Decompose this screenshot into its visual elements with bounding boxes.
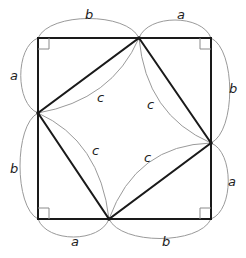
label-c-top-right: c: [147, 97, 154, 112]
right-angle-bottom-right: [200, 208, 211, 219]
arc-bottom-b: [109, 219, 211, 239]
label-left-a: a: [10, 68, 18, 83]
label-bottom-b: b: [162, 234, 170, 249]
right-angle-top-right: [200, 38, 211, 49]
arc-right-a: [211, 143, 228, 219]
arc-right-b: [211, 38, 230, 143]
right-angle-top-left: [38, 38, 49, 49]
label-c-bottom-right: c: [144, 150, 151, 165]
label-right-a: a: [228, 174, 236, 189]
label-top-a: a: [177, 7, 185, 22]
inner-arcs: [38, 38, 211, 219]
arc-left-a: [21, 38, 38, 113]
label-c-bottom-left: c: [92, 143, 99, 158]
label-left-b: b: [10, 161, 18, 176]
arc-top-a: [139, 20, 211, 38]
label-top-b: b: [85, 7, 93, 22]
arc-left-b: [20, 113, 38, 219]
pythagorean-square-diagram: b a b a a b a b c c c c: [0, 0, 246, 258]
label-bottom-a: a: [71, 234, 79, 249]
label-right-b: b: [229, 81, 237, 96]
right-angle-bottom-left: [38, 208, 49, 219]
outer-arcs: [20, 19, 230, 239]
label-c-top-left: c: [97, 90, 104, 105]
